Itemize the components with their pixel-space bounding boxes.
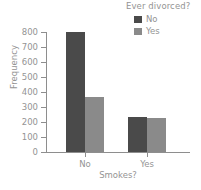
x-tick-label: No <box>65 159 105 169</box>
legend-label-no: No <box>146 14 158 24</box>
bar-yes-yes <box>147 118 166 152</box>
y-tick-label: 200 <box>22 117 38 127</box>
bar-no-no <box>66 32 85 152</box>
y-tick-label: 600 <box>22 57 38 67</box>
y-tick-label: 500 <box>22 72 38 82</box>
plot-area <box>46 32 190 152</box>
y-tick-label: 0 <box>33 147 38 157</box>
x-tick-mark <box>85 152 86 157</box>
bar-yes-no <box>128 117 147 152</box>
x-tick-mark <box>147 152 148 157</box>
bar-no-yes <box>85 97 104 152</box>
bar-chart: Ever divorced? No Yes Frequency 80070060… <box>0 0 201 190</box>
y-tick-label: 700 <box>22 42 38 52</box>
x-axis-label: Smokes? <box>46 170 190 180</box>
legend-title: Ever divorced? <box>126 1 201 12</box>
y-tick-label: 300 <box>22 102 38 112</box>
y-tick-label: 100 <box>22 132 38 142</box>
legend-swatch-no <box>134 16 142 23</box>
legend-entry-no: No <box>134 14 201 24</box>
y-tick-label: 800 <box>22 27 38 37</box>
x-axis-line <box>46 152 190 153</box>
y-axis-label: Frequency <box>9 35 19 99</box>
x-tick-label: Yes <box>127 159 167 169</box>
chart-legend: Ever divorced? No Yes <box>126 1 201 36</box>
y-tick-label: 400 <box>22 87 38 97</box>
